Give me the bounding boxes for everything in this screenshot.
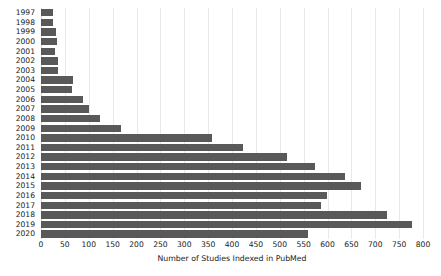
y-tick-label-2013: 2013 bbox=[16, 162, 35, 172]
gridline-800 bbox=[423, 8, 424, 239]
y-tick-label-1998: 1998 bbox=[16, 18, 35, 28]
y-tick-label-2014: 2014 bbox=[16, 172, 35, 182]
x-tick-label-700: 700 bbox=[368, 240, 383, 249]
bar-2016 bbox=[41, 192, 327, 199]
x-tick-label-300: 300 bbox=[177, 240, 192, 249]
bar-2002 bbox=[41, 57, 58, 64]
x-tick-label-0: 0 bbox=[39, 240, 44, 249]
y-tick-label-2002: 2002 bbox=[16, 56, 35, 66]
bar-2001 bbox=[41, 48, 55, 55]
bar-row bbox=[41, 162, 423, 172]
bar-chart: PubMed 199719981999200020012002200320042… bbox=[0, 0, 441, 276]
bar-2005 bbox=[41, 86, 72, 93]
x-axis-title: Number of Studies Indexed in PubMed bbox=[41, 254, 423, 263]
y-tick-label-2004: 2004 bbox=[16, 75, 35, 85]
bar-2008 bbox=[41, 115, 100, 122]
bar-row bbox=[41, 201, 423, 211]
bar-2015 bbox=[41, 182, 361, 189]
bar-2013 bbox=[41, 163, 315, 170]
bar-row bbox=[41, 124, 423, 134]
y-tick-label-2020: 2020 bbox=[16, 229, 35, 239]
bar-row bbox=[41, 66, 423, 76]
y-tick-label-2019: 2019 bbox=[16, 220, 35, 230]
y-tick-label-2005: 2005 bbox=[16, 85, 35, 95]
x-tick-label-250: 250 bbox=[153, 240, 168, 249]
bar-row bbox=[41, 27, 423, 37]
bar-row bbox=[41, 75, 423, 85]
bar-row bbox=[41, 56, 423, 66]
x-tick-label-450: 450 bbox=[249, 240, 264, 249]
bar-2017 bbox=[41, 202, 321, 209]
y-tick-label-2017: 2017 bbox=[16, 201, 35, 211]
y-tick-label-2008: 2008 bbox=[16, 114, 35, 124]
x-tick-label-400: 400 bbox=[225, 240, 240, 249]
bar-1999 bbox=[41, 28, 56, 35]
y-tick-label-1999: 1999 bbox=[16, 27, 35, 37]
bar-2003 bbox=[41, 67, 58, 74]
x-tick-label-650: 650 bbox=[344, 240, 359, 249]
x-tick-label-50: 50 bbox=[60, 240, 70, 249]
x-tick-label-600: 600 bbox=[320, 240, 335, 249]
y-tick-label-2018: 2018 bbox=[16, 210, 35, 220]
y-tick-label-2001: 2001 bbox=[16, 47, 35, 57]
y-tick-label-2015: 2015 bbox=[16, 181, 35, 191]
y-tick-label-2012: 2012 bbox=[16, 152, 35, 162]
bar-2012 bbox=[41, 153, 287, 160]
bar-row bbox=[41, 229, 423, 239]
bar-2020 bbox=[41, 230, 308, 237]
bar-2000 bbox=[41, 38, 57, 45]
y-tick-label-2000: 2000 bbox=[16, 37, 35, 47]
x-tick-label-750: 750 bbox=[392, 240, 407, 249]
bar-2019 bbox=[41, 221, 412, 228]
bar-row bbox=[41, 85, 423, 95]
bar-row bbox=[41, 95, 423, 105]
bar-row bbox=[41, 133, 423, 143]
bar-2009 bbox=[41, 125, 121, 132]
x-tick-label-200: 200 bbox=[129, 240, 144, 249]
y-tick-label-2010: 2010 bbox=[16, 133, 35, 143]
x-tick-label-550: 550 bbox=[296, 240, 311, 249]
y-tick-label-2003: 2003 bbox=[16, 66, 35, 76]
y-tick-label-2006: 2006 bbox=[16, 95, 35, 105]
x-tick-label-150: 150 bbox=[105, 240, 120, 249]
bar-2011 bbox=[41, 144, 243, 151]
bar-2014 bbox=[41, 173, 345, 180]
bar-row bbox=[41, 18, 423, 28]
x-axis-tick-labels: 0501001502002503003504004505005506006507… bbox=[41, 240, 423, 254]
bar-2004 bbox=[41, 76, 73, 83]
bar-row bbox=[41, 172, 423, 182]
bar-row bbox=[41, 152, 423, 162]
bar-row bbox=[41, 114, 423, 124]
x-tick-label-800: 800 bbox=[416, 240, 431, 249]
bar-row bbox=[41, 143, 423, 153]
bar-row bbox=[41, 47, 423, 57]
x-tick-label-100: 100 bbox=[82, 240, 97, 249]
plot-area bbox=[41, 8, 423, 239]
bar-row bbox=[41, 181, 423, 191]
bar-2010 bbox=[41, 134, 212, 141]
x-tick-label-500: 500 bbox=[273, 240, 288, 249]
y-tick-label-2016: 2016 bbox=[16, 191, 35, 201]
bar-row bbox=[41, 104, 423, 114]
bar-1998 bbox=[41, 19, 53, 26]
bar-row bbox=[41, 210, 423, 220]
bar-1997 bbox=[41, 9, 53, 16]
y-tick-label-1997: 1997 bbox=[16, 8, 35, 18]
bar-2006 bbox=[41, 96, 83, 103]
bar-row bbox=[41, 191, 423, 201]
bar-row bbox=[41, 8, 423, 18]
y-tick-label-2011: 2011 bbox=[16, 143, 35, 153]
y-tick-label-2009: 2009 bbox=[16, 124, 35, 134]
bar-2018 bbox=[41, 211, 387, 218]
bar-row bbox=[41, 37, 423, 47]
bar-2007 bbox=[41, 105, 89, 112]
y-tick-label-2007: 2007 bbox=[16, 104, 35, 114]
bar-row bbox=[41, 220, 423, 230]
y-axis-tick-labels: 1997199819992000200120022003200420052006… bbox=[0, 8, 38, 239]
x-tick-label-350: 350 bbox=[201, 240, 216, 249]
